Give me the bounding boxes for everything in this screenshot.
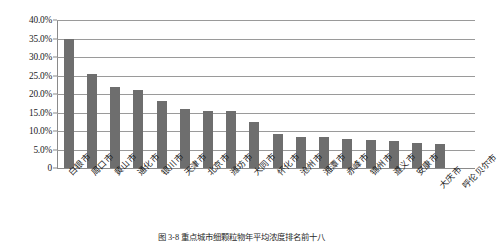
gridline <box>57 57 475 58</box>
gridline <box>57 76 475 77</box>
plot-area <box>57 20 475 168</box>
gridline <box>57 39 475 40</box>
y-axis-tick-label: 5.0% <box>0 145 52 155</box>
y-axis-tick-label: 35.0% <box>0 34 52 44</box>
y-axis-tick-label: 30.0% <box>0 52 52 62</box>
y-axis-tick-label: 25.0% <box>0 71 52 81</box>
figure-caption: 图 3-8 重点城市细颗粒物年平均浓度排名前十八 <box>0 232 483 243</box>
y-axis-tick-label: 0 <box>0 163 52 173</box>
y-axis-tick-label: 15.0% <box>0 108 52 118</box>
gridline <box>57 20 475 21</box>
bar <box>64 39 74 168</box>
y-axis-labels: 40.0%35.0%30.0%25.0%20.0%15.0%10.0%5.0%0 <box>0 20 53 168</box>
y-axis-tick-label: 20.0% <box>0 89 52 99</box>
y-axis-tick-label: 40.0% <box>0 15 52 25</box>
y-axis-tick-label: 10.0% <box>0 126 52 136</box>
